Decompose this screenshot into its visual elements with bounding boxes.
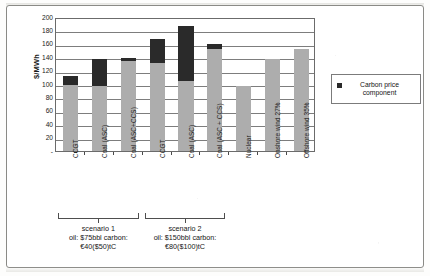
- scenario-bracket-tick: [98, 219, 99, 223]
- scanned-page: $/MWh 20018016014012010080604020- CCGTCo…: [0, 0, 430, 276]
- y-axis-tick-label: -: [27, 149, 53, 156]
- bar-segment-carbon-price[interactable]: [63, 76, 78, 85]
- bar-segment-carbon-price[interactable]: [150, 39, 165, 62]
- x-axis-category-label: CCGT: [159, 139, 166, 158]
- scenario-caption-line: €80($100)tC: [125, 242, 245, 251]
- x-axis-tick-mark: [257, 152, 258, 155]
- legend-swatch-carbon-price: [337, 83, 342, 88]
- bar-group[interactable]: [236, 17, 251, 151]
- y-axis-tick-label: 80: [27, 95, 53, 102]
- legend-label-carbon-price: Carbon price component: [344, 81, 416, 98]
- x-axis-category-label: Coal (ASC+CCS): [130, 107, 137, 158]
- bar-segment-carbon-price[interactable]: [178, 26, 193, 80]
- x-axis-tick-mark: [286, 152, 287, 155]
- bar-segment-base-cost[interactable]: [150, 63, 165, 151]
- y-axis-tick-label: 20: [27, 135, 53, 142]
- bar-group[interactable]: [150, 17, 165, 151]
- x-axis-tick-mark: [84, 152, 85, 155]
- y-axis-tick-label: 60: [27, 108, 53, 115]
- x-axis-category-label: CCGT: [72, 139, 79, 158]
- scenario-bracket-tick: [185, 219, 186, 223]
- x-axis-tick-mark: [113, 152, 114, 155]
- x-axis-tick-mark: [228, 152, 229, 155]
- scenario-caption-line: scenario 2: [125, 224, 245, 233]
- x-axis-category-label: Onshore wind 27%: [274, 102, 281, 158]
- x-axis-category-label: Nuclear: [245, 135, 252, 158]
- y-axis-tick-label: 160: [27, 41, 53, 48]
- x-axis-tick-mark: [171, 152, 172, 155]
- bar-segment-carbon-price[interactable]: [92, 59, 107, 86]
- chart-legend: Carbon price component: [331, 74, 421, 104]
- scenario-caption: scenario 2oil: $150bbl carbon:€80($100)t…: [125, 224, 245, 252]
- x-axis-category-label: Coal (ASC): [101, 125, 108, 158]
- y-axis-tick-label: 40: [27, 122, 53, 129]
- y-axis-tick-label: 140: [27, 55, 53, 62]
- x-axis-category-label: Coal (ASC): [188, 125, 195, 158]
- x-axis-category-label: Offshore wind 35%: [303, 102, 310, 158]
- y-axis-tick-label: 200: [27, 15, 53, 22]
- y-axis-tick-label: 120: [27, 68, 53, 75]
- scenario-caption-line: oil: $150bbl carbon:: [125, 233, 245, 242]
- bar-group[interactable]: [63, 17, 78, 151]
- bar-chart: $/MWh 20018016014012010080604020- CCGTCo…: [0, 0, 430, 276]
- y-axis-tick-label: 100: [27, 82, 53, 89]
- x-axis-category-label: Coal (ASC + CCS): [216, 103, 223, 158]
- x-axis-tick-mark: [142, 152, 143, 155]
- y-axis-tick-label: 180: [27, 28, 53, 35]
- x-axis-tick-mark: [199, 152, 200, 155]
